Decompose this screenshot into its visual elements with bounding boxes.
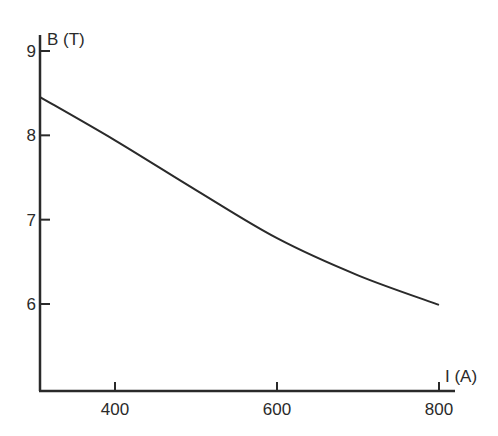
y-tick-label: 6 xyxy=(27,295,36,314)
x-axis-label: I (A) xyxy=(445,367,477,386)
y-tick-label: 8 xyxy=(27,126,36,145)
x-ticks: 400600800 xyxy=(101,382,453,419)
x-tick-label: 800 xyxy=(425,400,453,419)
x-tick-label: 600 xyxy=(263,400,291,419)
x-tick-label: 400 xyxy=(101,400,129,419)
chart: B (T) I (A) 6789 400600800 xyxy=(0,0,498,436)
y-ticks: 6789 xyxy=(27,42,50,314)
y-axis-label: B (T) xyxy=(47,30,85,49)
data-line xyxy=(40,97,439,304)
y-tick-label: 7 xyxy=(27,211,36,230)
y-tick-label: 9 xyxy=(27,42,36,61)
